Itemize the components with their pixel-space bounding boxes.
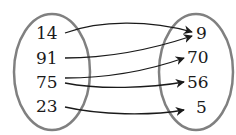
range-value: 56 bbox=[187, 72, 209, 92]
arrow-75-to-70 bbox=[65, 58, 184, 78]
arrow-75-to-56 bbox=[65, 82, 184, 87]
domain-value: 75 bbox=[36, 72, 58, 92]
range-value: 9 bbox=[196, 23, 207, 43]
range-value: 5 bbox=[196, 97, 207, 117]
domain-value: 23 bbox=[36, 96, 58, 116]
domain-value: 14 bbox=[36, 23, 58, 43]
mapping-diagram: 14 91 75 23 9 70 56 5 bbox=[0, 0, 236, 135]
range-value: 70 bbox=[187, 47, 209, 67]
domain-value: 91 bbox=[36, 48, 58, 68]
